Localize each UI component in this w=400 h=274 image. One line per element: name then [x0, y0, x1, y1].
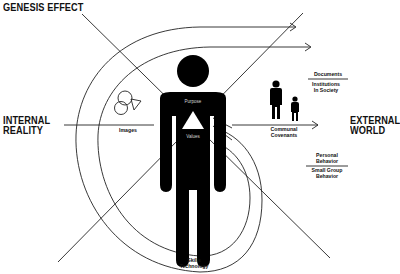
group-behavior-line: Behavior: [306, 174, 348, 180]
personal-behavior-label: Personal Behavior: [308, 153, 346, 165]
external-world-line2: WORLD: [350, 126, 400, 136]
internal-reality-line2: REALITY: [3, 126, 50, 136]
skills-technology-label: Skills Technology: [174, 258, 214, 270]
institutions-label: Institutions In Society: [306, 82, 346, 94]
documents-label: Documents: [310, 72, 346, 78]
overlapping-shapes-icon: [115, 91, 142, 115]
adult-child-icon: [270, 80, 299, 121]
diagram-title: GENESIS EFFECT: [3, 3, 84, 13]
external-world-label: EXTERNAL WORLD: [350, 116, 400, 136]
in-society-line: In Society: [306, 88, 346, 94]
communal-covenants-label: Communal Covenants: [266, 127, 302, 139]
covenants-line: Covenants: [266, 133, 302, 139]
behavior-line: Behavior: [308, 159, 346, 165]
purpose-text: Purpose: [176, 100, 210, 105]
images-label: Images: [114, 128, 142, 134]
values-text: Values: [176, 135, 210, 140]
internal-reality-label: INTERNAL REALITY: [3, 116, 50, 136]
small-group-behavior-label: Small Group Behavior: [306, 168, 348, 180]
central-person-icon: [160, 55, 226, 267]
technology-line: Technology: [174, 264, 214, 270]
